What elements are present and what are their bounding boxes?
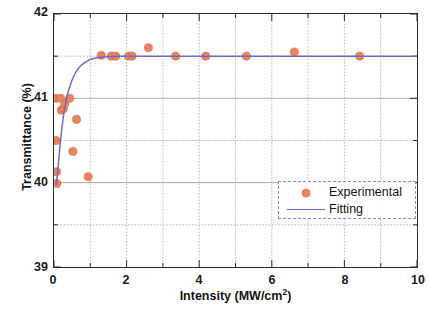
data-layer xyxy=(54,14,417,267)
x-axis-title: Intensity (MW/cm2) xyxy=(53,287,418,303)
x-axis-title-base: Intensity (MW/cm xyxy=(180,289,283,303)
x-tick-label: 2 xyxy=(111,273,141,287)
legend-label-fitting: Fitting xyxy=(329,201,363,218)
grid-layer xyxy=(54,14,417,267)
plot-area: Experimental Fitting xyxy=(53,13,418,268)
y-axis-title: Transmittance (%) xyxy=(20,47,34,227)
y-tick-label: 40 xyxy=(22,175,48,189)
chart-figure: Transmittance (%) Intensity (MW/cm2) 394… xyxy=(0,0,429,309)
legend-line-icon xyxy=(283,209,329,210)
legend-label-experimental: Experimental xyxy=(329,184,402,201)
x-tick-label: 4 xyxy=(184,273,214,287)
legend-marker-icon xyxy=(283,189,329,197)
x-tick-label: 10 xyxy=(403,273,429,287)
x-axis-title-tail: ) xyxy=(287,289,291,303)
legend-item-fitting: Fitting xyxy=(283,201,411,218)
chart-legend: Experimental Fitting xyxy=(278,181,416,219)
y-tick-label: 42 xyxy=(22,5,48,19)
legend-item-experimental: Experimental xyxy=(283,184,411,201)
x-tick-label: 0 xyxy=(38,273,68,287)
x-tick-label: 8 xyxy=(330,273,360,287)
x-tick-label: 6 xyxy=(257,273,287,287)
y-tick-label: 39 xyxy=(22,260,48,274)
y-tick-label: 41 xyxy=(22,90,48,104)
